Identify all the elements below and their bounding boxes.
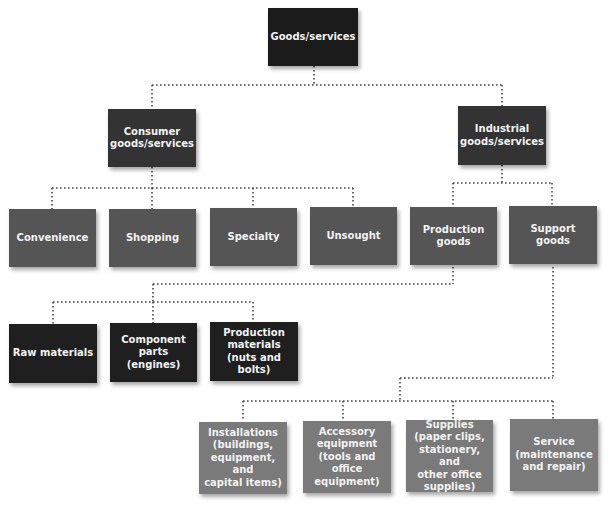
node-component-parts: Component parts (engines)	[110, 323, 197, 382]
node-goods-services: Goods/services	[268, 8, 358, 66]
node-industrial-goods-services: Industrial goods/services	[458, 106, 546, 165]
node-specialty: Specialty	[210, 208, 297, 266]
node-raw-materials: Raw materials	[9, 324, 97, 383]
node-installations: Installations (buildings, equipment, and…	[199, 422, 287, 494]
node-unsought: Unsought	[310, 207, 397, 265]
node-consumer-goods-services: Consumer goods/services	[108, 109, 196, 167]
node-production-materials: Production materials (nuts and bolts)	[210, 322, 298, 381]
node-supplies: Supplies (paper clips, stationery, and o…	[406, 420, 493, 492]
node-support-goods: Support goods	[509, 206, 597, 264]
node-accessory-equipment: Accessory equipment (tools and office eq…	[303, 421, 391, 493]
hierarchy-diagram: Goods/services Consumer goods/services I…	[0, 0, 614, 508]
node-shopping: Shopping	[109, 209, 196, 267]
node-production-goods: Production goods	[410, 207, 497, 265]
node-convenience: Convenience	[9, 209, 96, 267]
node-service: Service (maintenance and repair)	[510, 419, 598, 491]
